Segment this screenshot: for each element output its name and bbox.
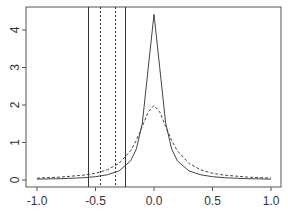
y-tick-label: 3 <box>8 64 22 71</box>
y-tick-label: 4 <box>8 26 22 33</box>
x-tick-label: 0.0 <box>146 194 163 208</box>
solid-density-line <box>37 14 271 179</box>
series-lines <box>37 14 271 179</box>
x-tick-label: -0.5 <box>85 194 106 208</box>
density-chart: -1.0-0.50.00.51.0 01234 <box>0 0 288 213</box>
x-tick-label: 1.0 <box>263 194 280 208</box>
x-tick-label: -1.0 <box>27 194 48 208</box>
y-tick-label: 2 <box>8 101 22 108</box>
plot-frame <box>26 7 281 187</box>
x-tick-label: 0.5 <box>204 194 221 208</box>
y-tick-label: 1 <box>8 139 22 146</box>
dashed-density-line <box>37 105 271 178</box>
x-axis: -1.0-0.50.00.51.0 <box>27 187 280 208</box>
y-tick-label: 0 <box>8 176 22 183</box>
vertical-reference-lines <box>89 7 126 187</box>
y-axis: 01234 <box>8 26 26 183</box>
